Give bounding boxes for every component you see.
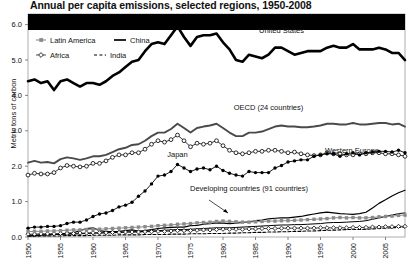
data-marker (130, 151, 134, 155)
y-tick-label: 6.0 (12, 20, 22, 29)
data-marker (111, 227, 114, 230)
data-marker (358, 216, 361, 219)
data-marker (156, 174, 159, 177)
data-marker (72, 220, 75, 223)
data-marker (52, 225, 55, 228)
data-marker (215, 165, 218, 168)
data-marker (137, 195, 140, 198)
data-marker (286, 219, 289, 222)
data-marker (241, 220, 244, 223)
data-marker (228, 172, 231, 175)
data-marker (72, 228, 75, 231)
data-marker (273, 166, 276, 169)
data-marker (182, 222, 185, 225)
data-marker (85, 218, 88, 221)
data-marker (312, 218, 315, 221)
data-marker (130, 201, 133, 204)
data-marker (156, 224, 159, 227)
data-marker (338, 216, 341, 219)
data-marker (91, 228, 94, 231)
data-marker (65, 164, 69, 168)
y-tick-label: 0.0 (12, 233, 22, 242)
data-marker (299, 152, 303, 156)
data-marker (33, 171, 37, 175)
data-marker (202, 142, 206, 146)
data-marker (169, 223, 172, 226)
data-marker (312, 155, 315, 158)
data-marker (293, 219, 296, 222)
data-marker (384, 150, 387, 153)
data-marker (33, 225, 36, 228)
data-marker (137, 151, 141, 155)
data-marker (59, 166, 63, 170)
data-marker (299, 158, 302, 161)
y-tick-label: 3.0 (12, 126, 22, 135)
data-marker (280, 164, 283, 167)
legend-label-india: India (110, 51, 127, 60)
data-marker (98, 228, 101, 231)
data-marker (182, 166, 185, 169)
y-tick-label: 5.0 (12, 56, 22, 65)
data-marker (351, 216, 354, 219)
data-marker (156, 139, 160, 143)
legend-label-china: China (130, 36, 150, 45)
annotation-united-states: United States (259, 26, 304, 35)
x-tick-label: 2005 (382, 243, 389, 259)
data-marker (46, 172, 50, 176)
data-marker (397, 214, 400, 217)
data-marker (195, 167, 198, 170)
data-marker (403, 154, 407, 158)
data-marker (59, 224, 62, 227)
data-marker (299, 218, 302, 221)
data-marker (169, 138, 173, 142)
x-tick-label: 1990 (285, 243, 292, 259)
data-marker (280, 219, 283, 222)
data-marker (280, 149, 284, 153)
data-marker (260, 220, 263, 223)
data-marker (150, 142, 154, 146)
y-tick-label: 2.0 (12, 162, 22, 171)
data-marker (143, 225, 146, 228)
data-marker (85, 228, 88, 231)
data-marker (163, 173, 166, 176)
data-marker (364, 216, 367, 219)
data-marker (104, 159, 108, 163)
data-marker (293, 150, 297, 154)
data-marker (46, 229, 49, 232)
annotation-japan: Japan (167, 150, 187, 159)
data-marker (98, 161, 102, 165)
data-marker (306, 153, 310, 157)
title-band (28, 14, 405, 30)
data-marker (104, 227, 107, 230)
x-tick-label: 1975 (187, 243, 194, 259)
data-marker (254, 220, 257, 223)
data-marker (338, 155, 341, 158)
data-marker (397, 149, 400, 152)
data-marker (124, 226, 127, 229)
data-marker (39, 225, 42, 228)
data-marker (176, 133, 180, 137)
data-marker (241, 174, 244, 177)
annotation-oecd-24-countries: OECD (24 countries) (234, 103, 304, 112)
data-marker (234, 220, 237, 223)
data-marker (260, 149, 264, 153)
data-marker (163, 140, 167, 144)
x-tick-label: 1955 (57, 243, 64, 259)
data-marker (228, 148, 232, 152)
data-marker (163, 224, 166, 227)
data-marker (143, 189, 146, 192)
data-marker (182, 139, 186, 143)
data-marker (124, 203, 127, 206)
data-marker (273, 219, 276, 222)
annotation-western-europe: Western Europe (325, 146, 379, 155)
data-marker (65, 229, 68, 232)
data-marker (137, 225, 140, 228)
x-tick-label: 2000 (350, 243, 357, 259)
data-marker (234, 173, 237, 176)
data-marker (117, 226, 120, 229)
data-marker (117, 153, 121, 157)
legend-label-africa: Africa (50, 51, 70, 60)
chart-canvas: 0.01.02.03.04.05.06.01950195519601965197… (0, 0, 409, 266)
x-tick-label: 1970 (155, 243, 162, 259)
y-tick-label: 4.0 (12, 91, 22, 100)
